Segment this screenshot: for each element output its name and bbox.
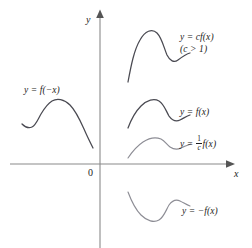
function-transformation-figure: y x 0 y = cf(x) (c > 1) y = f(x) y = 1cf… [0, 0, 252, 248]
curve-y-equals-negative-f-of-x [128, 192, 190, 221]
fraction-one-over-c: 1c [196, 135, 202, 151]
origin-label: 0 [88, 167, 93, 178]
x-axis-label: x [234, 168, 238, 179]
label-y-equals-f-of-x: y = f(x) [180, 107, 209, 119]
label-y-equals-one-over-c-f-of-x: y = 1cf(x) [180, 135, 216, 151]
curve-y-equals-f-of-negative-x [22, 99, 93, 148]
label-y-equals-c-f-of-x: y = cf(x) (c > 1) [180, 32, 214, 56]
label-one-over-c-suffix: f(x) [203, 139, 217, 149]
y-axis-arrow-icon [96, 10, 104, 19]
label-y-equals-f-of-negative-x: y = f(−x) [24, 85, 60, 97]
fraction-denominator: c [196, 144, 202, 152]
label-c-f-of-x-line1: y = cf(x) [180, 32, 214, 42]
y-axis-label: y [86, 14, 90, 25]
label-c-f-of-x-line2: (c > 1) [180, 44, 214, 56]
label-one-over-c-prefix: y = [180, 139, 196, 149]
label-y-equals-negative-f-of-x: y = −f(x) [182, 206, 218, 218]
x-axis-arrow-icon [226, 160, 235, 168]
